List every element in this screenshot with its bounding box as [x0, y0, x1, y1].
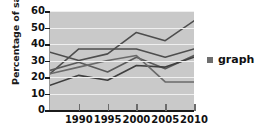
x-tick-label: 1990: [65, 113, 93, 126]
y-tick-mark: [45, 28, 50, 30]
x-tick-mark: [165, 104, 167, 111]
legend-item-label: graph: [218, 54, 254, 65]
y-tick-label: 10: [31, 89, 45, 99]
x-tick-label: 2000: [122, 113, 150, 126]
y-tick-label: 60: [31, 6, 45, 16]
chart-legend: graph: [207, 54, 254, 65]
y-tick-label: 50: [31, 23, 45, 33]
x-tick-label: 2010: [180, 113, 208, 126]
gridline: [50, 77, 194, 78]
y-tick-mark: [45, 77, 50, 79]
y-tick-mark: [45, 44, 50, 46]
x-tick-mark: [79, 104, 81, 111]
chart-figure: Percentage of sales 0102030405060 199019…: [0, 0, 271, 138]
x-tick-mark: [108, 104, 110, 111]
y-tick-mark: [45, 94, 50, 96]
plot-gridlines: [50, 11, 194, 110]
y-tick-label: 20: [31, 72, 45, 82]
x-tick-mark: [136, 104, 138, 111]
x-tick-label: 2005: [151, 113, 179, 126]
x-axis-line: [50, 110, 194, 112]
gridline: [50, 11, 194, 12]
x-tick-label: 1995: [94, 113, 122, 126]
x-axis-tick-labels: 19901995200020052010: [50, 113, 210, 129]
gridline: [50, 44, 194, 45]
y-tick-label: 40: [31, 39, 45, 49]
y-axis-tick-labels: 0102030405060: [16, 7, 47, 115]
y-tick-mark: [45, 61, 50, 63]
y-tick-label: 30: [31, 56, 45, 66]
legend-swatch-icon: [207, 57, 213, 63]
gridline: [50, 61, 194, 62]
x-tick-mark: [194, 104, 196, 111]
plot-area: [50, 11, 194, 110]
gridline: [50, 28, 194, 29]
y-tick-mark: [45, 11, 50, 13]
y-tick-mark: [45, 110, 50, 112]
gridline: [50, 94, 194, 95]
y-tick-label: 0: [38, 105, 45, 115]
